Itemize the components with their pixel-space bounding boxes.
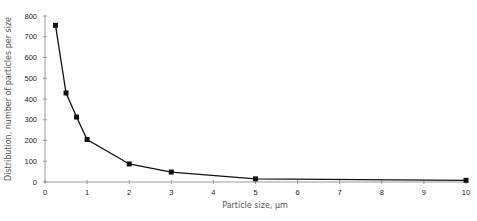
y-tick-label: 600 <box>24 53 37 62</box>
y-tick-label: 200 <box>24 136 37 145</box>
x-tick-label: 6 <box>296 188 300 197</box>
y-tick-label: 700 <box>24 32 37 41</box>
data-point-marker <box>74 115 79 120</box>
data-series <box>53 23 468 183</box>
data-point-marker <box>85 137 90 142</box>
data-point-marker <box>53 23 58 28</box>
particle-size-chart: 0123456789100100200300400500600700800 Pa… <box>0 0 477 221</box>
data-point-marker <box>169 170 174 175</box>
series-line <box>56 25 466 180</box>
axes: 0123456789100100200300400500600700800 <box>24 12 470 198</box>
y-tick-label: 500 <box>24 74 37 83</box>
data-point-marker <box>127 161 132 166</box>
y-axis-title: Distribution, number of particles per si… <box>4 17 13 181</box>
x-tick-label: 2 <box>127 188 131 197</box>
x-tick-label: 0 <box>43 188 47 197</box>
x-tick-label: 4 <box>211 188 215 197</box>
x-tick-label: 9 <box>422 188 426 197</box>
data-point-marker <box>64 90 69 95</box>
y-tick-label: 400 <box>24 95 37 104</box>
x-axis-title: Particle size, µm <box>222 201 288 210</box>
x-tick-label: 10 <box>462 188 470 197</box>
x-tick-label: 7 <box>338 188 342 197</box>
y-tick-label: 0 <box>33 178 37 187</box>
y-tick-label: 800 <box>24 12 37 21</box>
data-point-marker <box>253 176 258 181</box>
x-tick-label: 1 <box>85 188 89 197</box>
x-tick-label: 3 <box>169 188 173 197</box>
y-tick-label: 100 <box>24 157 37 166</box>
y-tick-label: 300 <box>24 115 37 124</box>
x-tick-label: 8 <box>380 188 384 197</box>
x-tick-label: 5 <box>253 188 257 197</box>
data-point-marker <box>464 178 469 183</box>
